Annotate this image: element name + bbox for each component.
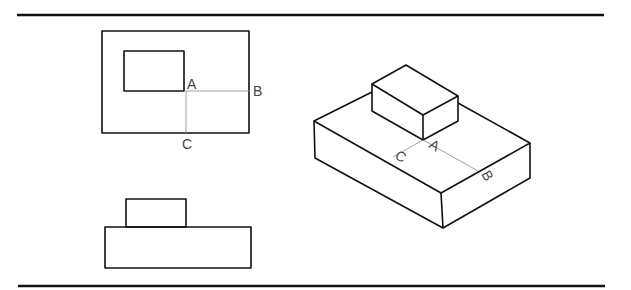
iso-small-top-face: [372, 65, 458, 115]
plan-label-a: A: [187, 76, 197, 92]
front-top-block: [126, 199, 186, 227]
iso-base-side-edges: [314, 121, 530, 228]
front-view: [105, 199, 251, 268]
front-base-block: [105, 227, 251, 268]
technical-drawing: A B C A B C: [0, 0, 631, 290]
plan-view: A B C: [102, 31, 262, 152]
iso-base-top-edges: [314, 92, 530, 193]
isometric-view: A B C: [314, 65, 530, 228]
plan-label-c: C: [182, 136, 192, 152]
plan-inner-rect: [124, 51, 184, 91]
iso-base-front-edge: [441, 193, 443, 228]
plan-label-b: B: [253, 83, 262, 99]
iso-label-a: A: [427, 136, 444, 155]
iso-label-c: C: [393, 147, 410, 166]
